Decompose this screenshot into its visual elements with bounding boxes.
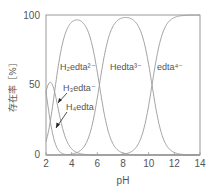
y-tick-0: 0 bbox=[34, 149, 40, 160]
x-tick-4: 4 bbox=[69, 158, 75, 169]
y-tick-50: 50 bbox=[29, 79, 41, 90]
y-tick-100: 100 bbox=[23, 10, 40, 21]
label-h3edta: H₃edta⁻ bbox=[63, 83, 96, 93]
label-h4edta: H₄edta bbox=[66, 102, 94, 112]
x-tick-6: 6 bbox=[95, 158, 101, 169]
label-hedta: Hedta³⁻ bbox=[110, 62, 142, 72]
x-tick-12: 12 bbox=[169, 158, 181, 169]
y-axis-label: 存在率［%］ bbox=[7, 58, 18, 112]
label-edta: edta⁴⁻ bbox=[157, 62, 183, 72]
x-tick-14: 14 bbox=[194, 158, 206, 169]
chart: 0 50 100 2 4 6 8 10 12 14 pH 存在率［%］ H₂ed… bbox=[0, 0, 215, 195]
label-h2edta: H₂edta²⁻ bbox=[60, 62, 96, 72]
x-tick-10: 10 bbox=[143, 158, 155, 169]
curve-H3edta- bbox=[46, 82, 200, 155]
x-axis-label: pH bbox=[117, 175, 130, 186]
x-tick-8: 8 bbox=[120, 158, 126, 169]
x-tick-2: 2 bbox=[43, 158, 49, 169]
